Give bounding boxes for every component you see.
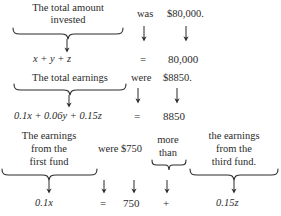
down-arrow-icon-row3-right bbox=[229, 180, 239, 194]
row-2-phrase-line-1: The total earnings bbox=[14, 72, 126, 84]
row-3-phrase2-line-1: the earnings bbox=[190, 130, 278, 142]
row-2-equation-right: 8850 bbox=[163, 110, 185, 122]
down-arrow-icon-row1-left bbox=[62, 39, 72, 53]
down-arrow-icon-row2-relation bbox=[133, 88, 143, 104]
row-2-equation-relation: = bbox=[134, 110, 140, 122]
down-arrow-icon-row3-value bbox=[129, 180, 139, 194]
row-1-equation-right: 80,000 bbox=[168, 53, 198, 65]
row-1-verb: was bbox=[137, 8, 153, 20]
down-arrow-icon-row1-relation bbox=[139, 26, 149, 42]
row-3-equation-left: 0.1x bbox=[35, 197, 53, 208]
down-arrow-icon-row2-left bbox=[64, 95, 74, 108]
row-1-equation-left: x + y + z bbox=[33, 53, 71, 64]
row-2-verb: were bbox=[131, 72, 151, 84]
row-1-phrase-line-1: The total amount bbox=[13, 2, 123, 14]
row-3-verb: were $750 bbox=[98, 143, 142, 155]
row-3-equation-plus: + bbox=[163, 197, 169, 209]
down-arrow-icon-row3-left bbox=[44, 180, 54, 194]
row-1-equation-relation: = bbox=[140, 53, 146, 65]
row-3-comparator-line-2: than bbox=[150, 147, 186, 159]
row-3-phrase-line-3: first fund bbox=[2, 156, 96, 168]
row-3-equation-value: 750 bbox=[123, 197, 140, 209]
row-1-phrase-line-2: invested bbox=[13, 14, 123, 26]
row-3-comparator-line-1: more bbox=[150, 134, 186, 146]
down-arrow-icon-row3-relation bbox=[99, 180, 109, 194]
row-3-phrase2-line-2: from the bbox=[190, 143, 278, 155]
under-brace-icon bbox=[151, 159, 187, 171]
row-2-value: $8850. bbox=[163, 72, 192, 84]
row-3-phrase-line-2: from the bbox=[2, 143, 96, 155]
down-arrow-icon-row2-value bbox=[172, 88, 182, 104]
down-arrow-icon-row3-plus bbox=[162, 180, 172, 194]
row-1-value: $80,000. bbox=[167, 8, 204, 20]
row-3-phrase-line-1: The earnings bbox=[2, 130, 96, 142]
down-arrow-icon-row1-value bbox=[181, 26, 191, 42]
row-3-phrase2-line-3: third fund. bbox=[190, 156, 278, 168]
row-3-equation-relation: = bbox=[100, 197, 106, 209]
row-3-equation-right: 0.15z bbox=[216, 197, 238, 208]
row-2-equation-left: 0.1x + 0.06y + 0.15z bbox=[14, 110, 102, 121]
word-problem-translation-diagram: The total amount invested was $80,000. bbox=[0, 0, 281, 216]
